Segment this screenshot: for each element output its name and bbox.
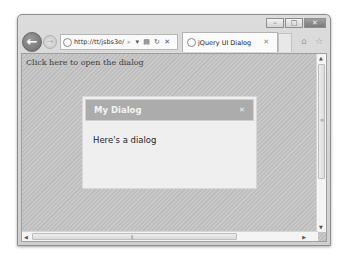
address-tools-icons[interactable]: ⌕ ▾ ▤ ↻ ✕ — [127, 38, 171, 46]
scroll-down-icon[interactable]: ▼ — [319, 224, 323, 230]
back-button[interactable]: ← — [22, 32, 42, 52]
open-dialog-link[interactable]: Click here to open the dialog — [26, 58, 144, 67]
forward-arrow-icon: → — [47, 37, 54, 46]
address-bar[interactable]: http://tt/jsbs3e/ ⌕ ▾ ▤ ↻ ✕ — [60, 34, 178, 50]
vertical-scrollbar[interactable]: ▲ ≡ ▼ — [316, 54, 326, 232]
close-window-button[interactable]: ✕ — [304, 18, 326, 28]
dialog-title: My Dialog — [94, 105, 142, 115]
minimize-button[interactable]: – — [266, 18, 284, 28]
horizontal-scrollbar[interactable]: ◀ ⦀ ▶ — [22, 231, 318, 241]
maximize-button[interactable]: □ — [285, 18, 303, 28]
back-arrow-icon: ← — [27, 34, 38, 49]
address-url[interactable]: http://tt/jsbs3e/ — [74, 38, 124, 46]
tab-title: jQuery UI Dialog — [198, 39, 251, 47]
scroll-left-icon[interactable]: ◀ — [24, 234, 28, 240]
dialog-message: Here's a dialog — [93, 135, 156, 145]
dialog-body: Here's a dialog — [85, 121, 254, 159]
grip-icon: ⦀ — [131, 234, 133, 241]
horizontal-scroll-thumb[interactable]: ⦀ — [32, 233, 237, 240]
scroll-up-icon[interactable]: ▲ — [319, 55, 323, 61]
tab-close-icon[interactable]: ✕ — [263, 38, 269, 46]
grip-icon: ≡ — [320, 117, 324, 123]
page-favicon-icon — [63, 38, 72, 47]
dialog-titlebar[interactable]: My Dialog ✕ — [85, 99, 254, 121]
tab-jquery-ui-dialog[interactable]: jQuery UI Dialog ✕ — [182, 32, 278, 52]
scroll-right-icon[interactable]: ▶ — [302, 234, 306, 240]
vertical-scroll-thumb[interactable]: ≡ — [318, 64, 325, 179]
forward-button[interactable]: → — [43, 35, 57, 49]
navigation-bar: ← → http://tt/jsbs3e/ ⌕ ▾ ▤ ↻ ✕ jQuery U… — [21, 32, 326, 52]
tab-favicon-icon — [187, 38, 196, 47]
favorites-star-icon[interactable]: ☆ — [315, 36, 323, 46]
home-icon[interactable]: ⌂ — [301, 36, 307, 46]
caption-buttons: – □ ✕ — [265, 18, 326, 28]
dialog: My Dialog ✕ Here's a dialog — [82, 96, 257, 189]
new-tab-button[interactable] — [278, 33, 292, 52]
page-content: Click here to open the dialog My Dialog … — [21, 53, 327, 242]
dialog-close-icon[interactable]: ✕ — [238, 106, 246, 114]
browser-window: – □ ✕ ← → http://tt/jsbs3e/ ⌕ ▾ ▤ ↻ ✕ jQ… — [17, 14, 331, 246]
